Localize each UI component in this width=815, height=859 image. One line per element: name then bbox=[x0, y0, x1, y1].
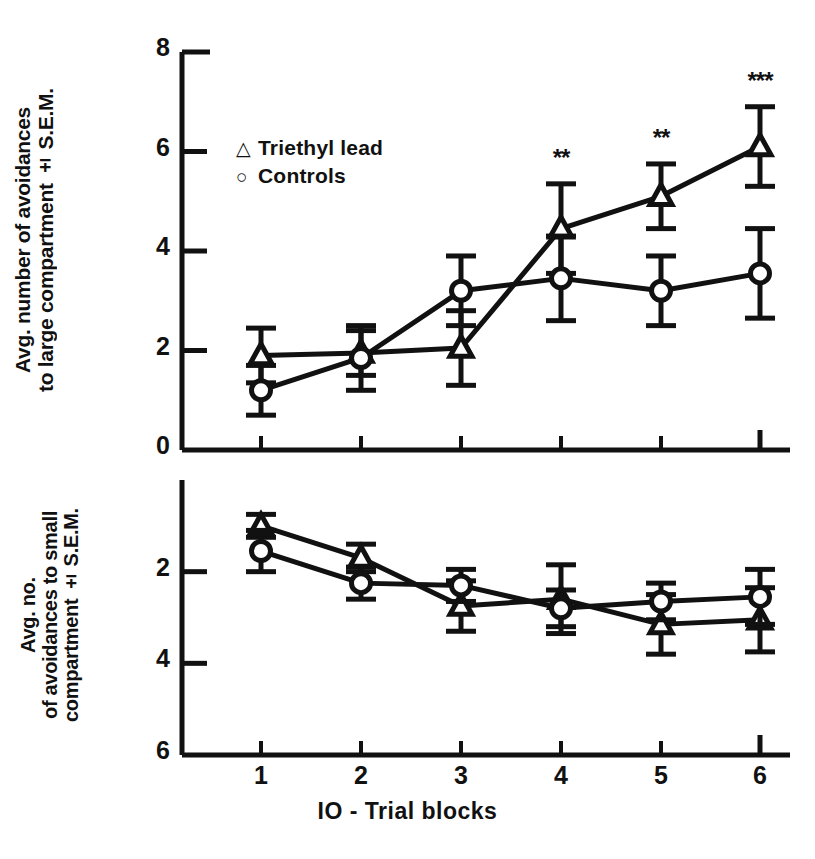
top-marker-circle bbox=[452, 281, 471, 300]
bottom-marker-circle bbox=[352, 574, 371, 593]
bottom-marker-circle bbox=[751, 587, 770, 606]
top-y-tick-label: 4 bbox=[130, 232, 170, 261]
bottom-y-tick-label: 4 bbox=[130, 644, 170, 673]
significance-marker: ** bbox=[653, 124, 670, 152]
bottom-y-tick-label: 6 bbox=[130, 736, 170, 765]
top-marker-circle bbox=[652, 281, 671, 300]
top-marker-circle bbox=[751, 264, 770, 283]
top-marker-circle bbox=[352, 348, 371, 367]
top-marker-triangle bbox=[749, 135, 771, 155]
significance-marker: ** bbox=[553, 144, 570, 172]
x-tick-label: 6 bbox=[740, 761, 780, 790]
plot-svg bbox=[0, 0, 815, 859]
top-series-line-triethyl-lead bbox=[261, 147, 760, 356]
bottom-marker-triangle bbox=[350, 546, 372, 566]
figure-container: Avg. number of avoidances to large compa… bbox=[0, 0, 815, 859]
bottom-marker-circle bbox=[552, 599, 571, 618]
x-tick-label: 3 bbox=[441, 761, 481, 790]
top-marker-triangle bbox=[250, 344, 272, 364]
bottom-series-line-controls bbox=[261, 551, 760, 608]
top-y-tick-label: 6 bbox=[130, 133, 170, 162]
plot-graphics bbox=[182, 52, 790, 755]
top-marker-circle bbox=[552, 269, 571, 288]
top-y-tick-label: 0 bbox=[130, 431, 170, 460]
x-tick-label: 1 bbox=[241, 761, 281, 790]
x-tick-label: 4 bbox=[541, 761, 581, 790]
significance-marker: *** bbox=[747, 67, 772, 95]
bottom-marker-circle bbox=[252, 542, 271, 561]
bottom-marker-circle bbox=[452, 576, 471, 595]
top-marker-triangle bbox=[650, 185, 672, 205]
top-marker-circle bbox=[252, 381, 271, 400]
x-tick-label: 5 bbox=[641, 761, 681, 790]
top-y-tick-label: 2 bbox=[130, 332, 170, 361]
x-tick-label: 2 bbox=[341, 761, 381, 790]
top-y-tick-label: 8 bbox=[130, 33, 170, 62]
bottom-marker-circle bbox=[652, 592, 671, 611]
bottom-y-tick-label: 2 bbox=[130, 553, 170, 582]
